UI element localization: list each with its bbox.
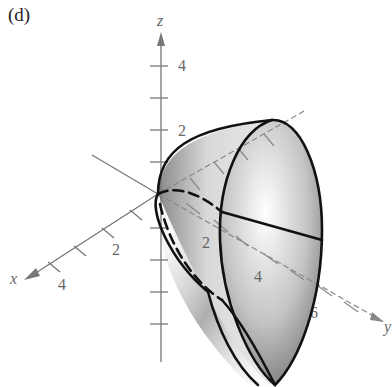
surface-body bbox=[157, 120, 322, 385]
z-axis-label: z bbox=[156, 12, 164, 29]
y-tick-label-4: 4 bbox=[254, 268, 262, 285]
x-tick-label-2: 2 bbox=[112, 241, 120, 258]
z-tick-label-2: 2 bbox=[178, 122, 186, 139]
z-tick-label-4: 4 bbox=[178, 57, 186, 74]
y-tick-label-2: 2 bbox=[202, 234, 210, 251]
x-tick-label-4: 4 bbox=[58, 276, 66, 293]
x-axis-label: x bbox=[9, 270, 17, 287]
y-axis-label: y bbox=[382, 318, 392, 336]
x-axis bbox=[24, 155, 158, 280]
3d-surface-diagram: z 4 2 x 2 4 y 2 4 6 bbox=[0, 0, 392, 387]
